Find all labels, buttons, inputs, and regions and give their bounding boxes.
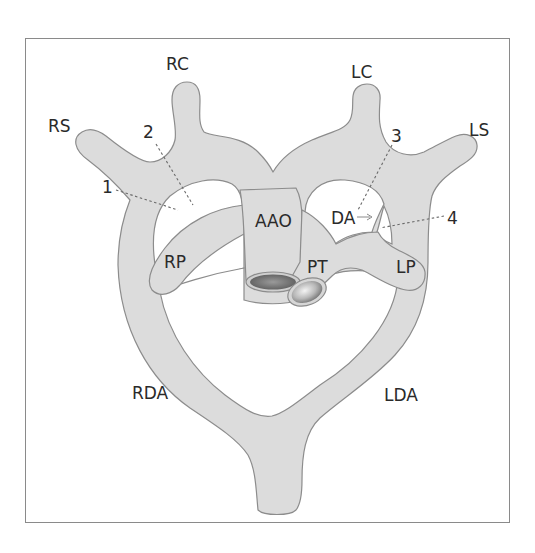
label-aao: AAO xyxy=(255,211,292,231)
label-rc: RC xyxy=(166,54,189,74)
label-da: DA xyxy=(331,208,356,228)
aao-cut-end xyxy=(250,275,296,290)
label-lda: LDA xyxy=(384,385,418,405)
marker-4: 4 xyxy=(447,208,458,228)
ascending-aorta xyxy=(240,188,302,282)
label-rp: RP xyxy=(164,252,186,272)
marker-2: 2 xyxy=(143,122,154,142)
double-aortic-arch-diagram: RC LC RS LS 2 1 3 4 AAO DA RP PT LP RDA … xyxy=(0,0,535,553)
label-rda: RDA xyxy=(132,383,169,403)
label-lp: LP xyxy=(396,257,416,277)
label-rs: RS xyxy=(48,116,71,136)
label-ls: LS xyxy=(469,120,489,140)
label-lc: LC xyxy=(351,62,372,82)
aortic-ring xyxy=(76,82,477,515)
marker-1: 1 xyxy=(102,177,113,197)
label-pt: PT xyxy=(307,257,328,277)
marker-3: 3 xyxy=(391,126,402,146)
